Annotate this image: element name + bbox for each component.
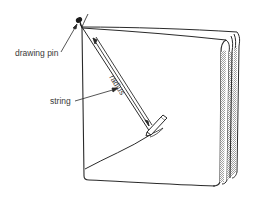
pin-leader — [61, 24, 77, 52]
diagram-figure: drawing pin string radius — [0, 0, 254, 199]
paper-drawing — [0, 0, 254, 199]
drawing-pin — [76, 14, 88, 28]
arc — [85, 135, 150, 169]
radius-dimension — [93, 37, 152, 126]
front-sheet — [82, 28, 226, 186]
folded-sheets — [82, 27, 240, 184]
string-leader — [75, 88, 118, 101]
string-label: string — [50, 97, 71, 106]
drawing-pin-label: drawing pin — [15, 49, 58, 58]
